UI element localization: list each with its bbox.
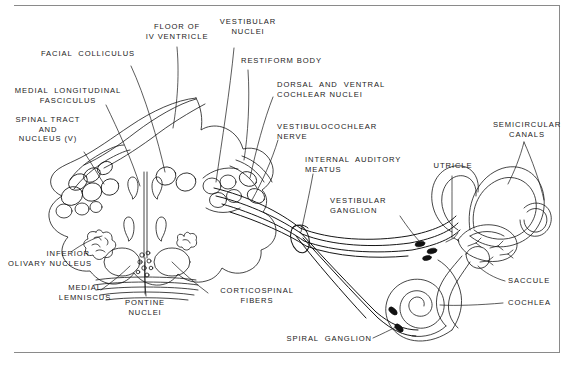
label-cochlea: COCHLEA bbox=[508, 298, 564, 308]
label-facial-colliculus: FACIAL COLLICULUS bbox=[38, 49, 138, 59]
label-utricle: UTRICLE bbox=[427, 161, 479, 171]
label-medial-longitudinal-fasciculus: MEDIAL LONGITUDINAL FASCICULUS bbox=[10, 86, 126, 105]
label-inferior-olivary-nucleus: INFERIOR OLIVARY NUCLEUS bbox=[8, 249, 90, 268]
label-dorsal-and-ventral-cochlear-nuclei: DORSAL AND VENTRAL COCHLEAR NUCLEI bbox=[277, 80, 399, 99]
label-semicircular-canals: SEMICIRCULAR CANALS bbox=[487, 120, 567, 139]
label-medial-lemniscus: MEDIAL LEMNISCUS bbox=[50, 283, 120, 302]
label-corticospinal-fibers: CORTICOSPINAL FIBERS bbox=[210, 286, 304, 305]
label-spinal-tract-and-nucleus-v: SPINAL TRACT AND NUCLEUS (V) bbox=[6, 115, 90, 144]
label-restiform-body: RESTIFORM BODY bbox=[241, 56, 345, 66]
label-pontine-nuclei: PONTINE NUCLEI bbox=[113, 298, 177, 317]
label-vestibular-nuclei: VESTIBULAR NUCLEI bbox=[208, 17, 288, 36]
label-vestibular-ganglion: VESTIBULAR GANGLION bbox=[330, 196, 414, 215]
figure-page: FLOOR OF IV VENTRICLE VESTIBULAR NUCLEI … bbox=[0, 0, 572, 370]
ganglion-markers bbox=[387, 240, 437, 333]
label-vestibulocochlear-nerve: VESTIBULOCOCHLEAR NERVE bbox=[277, 122, 389, 141]
label-spiral-ganglion: SPIRAL GANGLION bbox=[272, 334, 372, 344]
label-internal-auditory-meatus: INTERNAL AUDITORY MEATUS bbox=[305, 155, 417, 174]
label-saccule: SACCULE bbox=[508, 276, 564, 286]
